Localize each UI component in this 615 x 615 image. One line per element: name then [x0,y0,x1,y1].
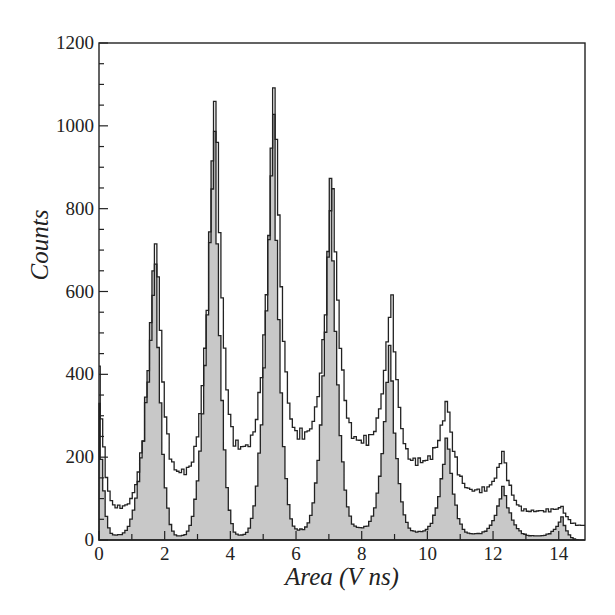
y-tick-label: 400 [66,363,95,384]
y-tick-label: 600 [66,281,95,302]
x-tick-label: 2 [160,543,170,564]
x-axis-title: Area (V ns) [283,563,399,591]
y-tick-label: 800 [66,198,95,219]
plot-series [99,88,585,540]
y-tick-label: 1000 [56,115,94,136]
filled-histogram [99,114,585,540]
x-tick-label: 10 [418,543,437,564]
x-tick-label: 4 [226,543,236,564]
y-tick-label: 1200 [56,32,94,53]
histogram-chart: 02468101214 020040060080010001200 Area (… [0,0,615,615]
x-tick-label: 8 [357,543,367,564]
y-tick-label: 0 [85,529,95,550]
x-tick-label: 6 [291,543,301,564]
x-tick-label: 0 [94,543,104,564]
x-tick-label: 14 [549,543,569,564]
y-axis-title: Counts [26,210,53,281]
x-tick-label: 12 [484,543,503,564]
y-tick-label: 200 [66,446,95,467]
